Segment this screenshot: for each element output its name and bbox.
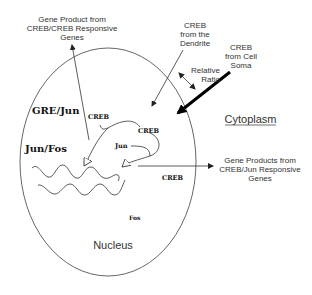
- creb-jun-gene-products-label: Gene Products from CREB/Jun Responsive G…: [215, 156, 305, 184]
- dendrite-creb-arrow: [152, 50, 183, 106]
- dna-strand-1: [32, 165, 119, 181]
- nucleus-label: Nucleus: [88, 239, 138, 252]
- relative-ratio-label: Relative Ratio: [180, 66, 220, 84]
- creb-binding-curve-1: [100, 121, 140, 129]
- jun-fos-label: Jun/Fos: [25, 143, 67, 154]
- gre-jun-label: GRE/Jun: [32, 105, 79, 116]
- creb-creb-gene-product-label: Gene Product from CREB/CREB Responsive G…: [22, 15, 122, 43]
- jun-binding-curve: [131, 146, 150, 156]
- dna-strand-2: [38, 180, 125, 195]
- cytoplasm-label: Cytoplasm: [222, 113, 279, 126]
- creb-label-3: CREB: [162, 174, 183, 182]
- creb-binding-curve-3: [122, 133, 159, 167]
- fos-label: Fos: [129, 214, 140, 221]
- creb-dendrite-label: CREB from the Dendrite: [170, 21, 220, 49]
- creb-label-1: CREB: [88, 113, 109, 121]
- creb-creb-export-arrow: [72, 45, 89, 140]
- jun-label: Jun: [115, 142, 128, 150]
- creb-label-2: CREB: [138, 127, 159, 135]
- creb-soma-label: CREB from Cell Soma: [216, 43, 266, 71]
